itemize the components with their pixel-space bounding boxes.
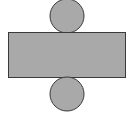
bottom-circle-base bbox=[50, 77, 84, 111]
top-circle-base bbox=[50, 0, 84, 33]
lateral-surface-rectangle bbox=[9, 33, 126, 78]
cylinder-net-diagram bbox=[0, 0, 128, 120]
